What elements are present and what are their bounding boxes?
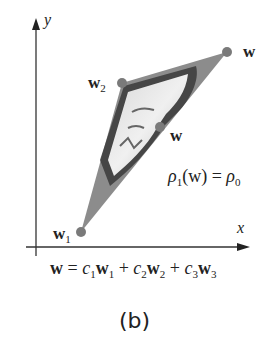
y-axis [32,18,40,256]
barycentric-equation: w = c1w1 + c2w2 + c3w3 [50,259,216,280]
label-w3: w [243,43,255,60]
x-axis-label: x [237,220,244,236]
y-axis-arrow-icon [32,18,40,30]
mapping-equation: ρ1(w) = ρ0 [168,167,240,188]
point-w3 [222,47,232,57]
point-w [155,122,165,132]
label-w2: w2 [88,74,106,94]
label-w: w [170,127,182,144]
y-axis-label: y [44,12,51,28]
point-w1 [76,227,86,237]
figure-caption: (b) [119,310,150,332]
point-w2 [117,78,127,88]
label-w1: w1 [53,225,71,245]
x-axis-arrow-icon [237,243,250,251]
